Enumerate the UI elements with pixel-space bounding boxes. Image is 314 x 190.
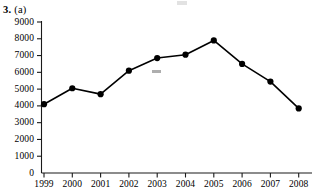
data-point-marker (296, 105, 302, 111)
data-point-marker (41, 101, 47, 107)
line-chart (0, 0, 314, 190)
data-series-line (44, 40, 299, 108)
y-axis-tick-label: 2000 (2, 134, 34, 144)
y-axis-tick-label: 0 (2, 168, 34, 178)
y-axis-tick-label: 6000 (2, 67, 34, 77)
data-point-marker (126, 68, 132, 74)
data-point-marker (182, 52, 188, 58)
y-axis-tick-label: 4000 (2, 100, 34, 110)
data-point-marker (267, 78, 273, 84)
y-axis-tick-label: 7000 (2, 50, 34, 60)
figure-panel: 3.(a) 0100020003000400050006000700080009… (0, 0, 314, 190)
y-axis-tick-label: 3000 (2, 117, 34, 127)
y-axis-tick-label: 1000 (2, 151, 34, 161)
data-point-marker (154, 55, 160, 61)
data-point-marker (69, 85, 75, 91)
y-axis-tick-label: 8000 (2, 33, 34, 43)
y-axis-tick-label: 9000 (2, 17, 34, 27)
x-axis-tick-label: 2008 (282, 179, 314, 189)
y-axis-tick-label: 5000 (2, 84, 34, 94)
data-point-marker (98, 91, 104, 97)
data-point-marker (211, 37, 217, 43)
scan-artifact-plot (152, 70, 161, 73)
chart-canvas (0, 0, 314, 190)
data-point-marker (239, 61, 245, 67)
